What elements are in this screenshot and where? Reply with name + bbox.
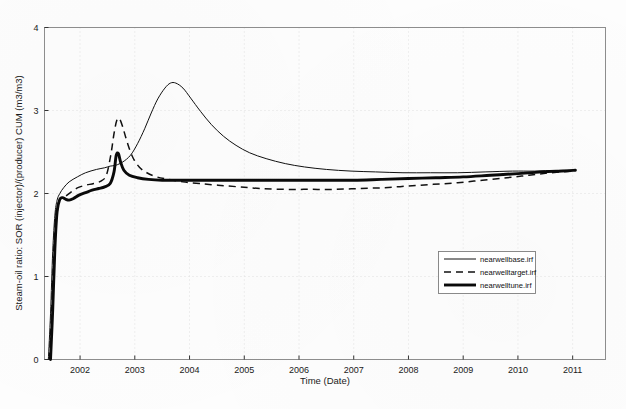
y-axis-label: Steam-oil ratio: SOR (injector)/(produce… <box>13 75 24 310</box>
y-tick-label: 3 <box>33 106 38 116</box>
chart-container: 2002200320042005200620072008200920102011… <box>0 0 626 409</box>
x-tick-label: 2002 <box>70 365 90 375</box>
x-tick-labels: 2002200320042005200620072008200920102011 <box>70 365 582 375</box>
legend-label-nearwellbase: nearwellbase.irf <box>480 255 534 264</box>
y-tick-label: 1 <box>33 272 38 282</box>
x-tick-label: 2009 <box>453 365 473 375</box>
x-tick-label: 2011 <box>563 365 582 375</box>
y-tick-label: 0 <box>33 355 38 365</box>
series-line-nearwelltarget <box>49 118 572 359</box>
x-axis-label: Time (Date) <box>300 375 350 386</box>
x-tick-label: 2007 <box>344 365 364 375</box>
x-tick-label: 2003 <box>125 365 145 375</box>
x-tick-label: 2004 <box>180 365 200 375</box>
x-tick-label: 2008 <box>398 365 418 375</box>
series-line-nearwellbase <box>48 82 575 359</box>
x-tick-label: 2006 <box>289 365 309 375</box>
gridlines <box>45 28 606 360</box>
legend-label-nearwelltarget: nearwelltarget.irf <box>480 268 537 277</box>
sor-line-chart: 2002200320042005200620072008200920102011… <box>0 0 626 409</box>
legend: nearwellbase.irf nearwelltarget.irf near… <box>439 252 538 294</box>
y-tick-labels: 01234 <box>33 23 38 365</box>
x-tick-label: 2005 <box>234 365 254 375</box>
y-tick-label: 4 <box>33 23 38 33</box>
y-tick-label: 2 <box>33 189 38 199</box>
legend-label-nearwelltune: nearwelltune.irf <box>480 281 532 290</box>
x-tick-label: 2010 <box>508 365 528 375</box>
